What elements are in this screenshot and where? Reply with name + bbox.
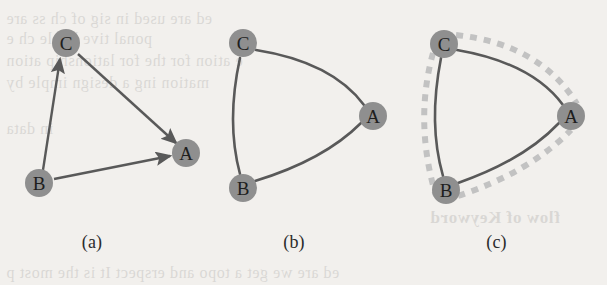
panel-c: C A B (c) <box>400 0 607 285</box>
caption-a: (a) <box>0 232 192 253</box>
node-a[interactable]: A <box>359 102 387 130</box>
figure: C A B (a) <box>0 0 607 285</box>
panel-b: C A B (b) <box>200 0 400 285</box>
edge-b-a <box>458 123 559 183</box>
panel-c-graph: C A B <box>400 0 607 230</box>
edge-b-to-a <box>54 156 170 179</box>
panel-a: C A B (a) <box>0 0 200 285</box>
edge-c-b <box>233 58 240 174</box>
edge-group-c <box>435 50 563 183</box>
node-c-label: C <box>438 34 451 55</box>
node-group-c: C A B <box>430 30 585 204</box>
caption-c: (c) <box>393 232 600 253</box>
node-a-label: A <box>564 106 578 127</box>
edge-c-a <box>457 50 563 105</box>
edge-group-b <box>233 50 364 181</box>
overlay-edge-b-a <box>458 130 571 196</box>
edge-b-to-c <box>43 59 60 170</box>
node-a-label: A <box>366 106 380 127</box>
node-c[interactable]: C <box>52 29 80 57</box>
node-a[interactable]: A <box>557 102 585 130</box>
edge-c-a <box>256 50 364 105</box>
node-a-label: A <box>179 143 193 164</box>
caption-b: (b) <box>194 232 394 253</box>
node-c[interactable]: C <box>229 29 257 57</box>
node-c-label: C <box>60 33 73 54</box>
node-b[interactable]: B <box>229 174 257 202</box>
edge-group-a <box>43 54 176 179</box>
node-a[interactable]: A <box>172 139 200 167</box>
overlay-edge-c-a <box>456 35 577 104</box>
panel-b-graph: C A B <box>200 0 400 230</box>
node-c[interactable]: C <box>430 30 458 58</box>
overlay-edge-group-c <box>424 35 577 196</box>
node-b[interactable]: B <box>432 176 460 204</box>
node-b-label: B <box>33 173 46 194</box>
node-b-label: B <box>440 180 453 201</box>
edge-c-b <box>435 58 443 176</box>
panel-a-graph: C A B <box>0 0 200 230</box>
edge-b-a <box>255 123 361 181</box>
node-c-label: C <box>237 33 250 54</box>
node-b-label: B <box>237 178 250 199</box>
edge-c-to-a <box>78 54 176 143</box>
node-b[interactable]: B <box>25 169 53 197</box>
node-group-b: C A B <box>229 29 387 202</box>
